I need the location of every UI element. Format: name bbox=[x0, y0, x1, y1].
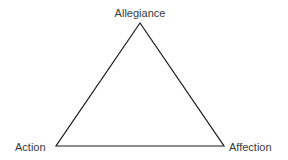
triangle-outline bbox=[56, 23, 224, 146]
triangle-shape bbox=[0, 0, 288, 160]
triangle-diagram: Allegiance Action Affection bbox=[0, 0, 288, 160]
vertex-label-allegiance: Allegiance bbox=[115, 7, 166, 19]
vertex-label-affection: Affection bbox=[229, 141, 272, 153]
vertex-label-action: Action bbox=[15, 141, 46, 153]
